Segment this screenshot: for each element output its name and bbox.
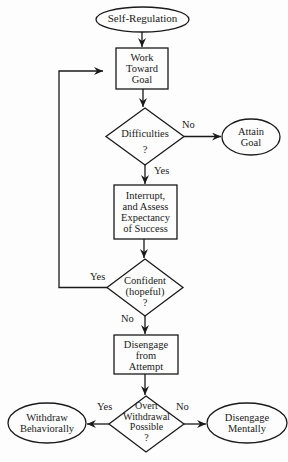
- attain-line2: Goal: [222, 137, 280, 148]
- difficulties-no-label: No: [182, 119, 195, 130]
- work-line1: Work: [116, 52, 168, 63]
- overt-no-label: No: [176, 401, 189, 412]
- difficulties-line2: ?: [106, 144, 184, 155]
- confident-line1: Confident: [107, 275, 183, 286]
- interrupt-line3: Expectancy: [114, 212, 177, 223]
- work-line3: Goal: [116, 74, 168, 85]
- confident-line2: (hopeful): [107, 286, 183, 297]
- overt-line1: Overt: [109, 401, 184, 412]
- overt-withdrawal-label: Overt Withdrawal Possible ?: [109, 401, 184, 443]
- withdraw-line1: Withdraw: [8, 412, 86, 423]
- overt-line4: ?: [109, 433, 184, 444]
- interrupt-line4: of Success: [114, 223, 177, 234]
- interrupt-line1: Interrupt,: [114, 190, 177, 201]
- overt-line3: Possible: [109, 422, 184, 433]
- confident-line3: ?: [107, 297, 183, 308]
- overt-yes-label: Yes: [97, 401, 112, 412]
- self-regulation-label: Self-Regulation: [96, 13, 189, 24]
- confident-label: Confident (hopeful) ?: [107, 275, 183, 308]
- interrupt-assess-label: Interrupt, and Assess Expectancy of Succ…: [114, 190, 177, 234]
- difficulties-label: Difficulties ?: [106, 128, 184, 155]
- interrupt-line2: and Assess: [114, 201, 177, 212]
- withdraw-line2: Behaviorally: [8, 423, 86, 434]
- difficulties-line1: Difficulties: [106, 128, 184, 139]
- disengage-mentally-line2: Mentally: [207, 423, 287, 434]
- confident-yes-label: Yes: [90, 271, 105, 282]
- disengage-mentally-line1: Disengage: [207, 412, 287, 423]
- edge-confident-work-loop: [59, 71, 107, 288]
- work-toward-goal-label: Work Toward Goal: [116, 52, 168, 85]
- confident-no-label: No: [121, 313, 134, 324]
- disengage-attempt-line3: Attempt: [114, 361, 178, 372]
- attain-goal-label: Attain Goal: [222, 126, 280, 148]
- flowchart-canvas: Self-Regulation Work Toward Goal Difficu…: [0, 0, 288, 462]
- disengage-attempt-label: Disengage from Attempt: [114, 339, 178, 372]
- disengage-mentally-label: Disengage Mentally: [207, 412, 287, 434]
- difficulties-yes-label: Yes: [154, 165, 169, 176]
- withdraw-behaviorally-label: Withdraw Behaviorally: [8, 412, 86, 434]
- disengage-attempt-line2: from: [114, 350, 178, 361]
- disengage-attempt-line1: Disengage: [114, 339, 178, 350]
- attain-line1: Attain: [222, 126, 280, 137]
- work-line2: Toward: [116, 63, 168, 74]
